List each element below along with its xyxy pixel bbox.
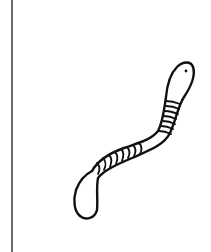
eye-icon (185, 70, 188, 73)
worm-illustration (0, 0, 211, 252)
worm-icon (74, 63, 193, 219)
